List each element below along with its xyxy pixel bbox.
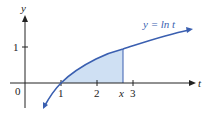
ln-graph: y t 0 1 2 x 3 1 y = ln t [0,0,207,122]
tick-1-label: 1 [58,87,64,99]
tick-3-label: 3 [130,87,136,99]
y-axis-label: y [20,2,26,14]
y-tick-1-label: 1 [13,41,19,53]
curve-label: y = ln t [142,18,176,30]
tick-2-label: 2 [94,87,100,99]
curve-arrow-end-icon [186,27,193,33]
y-axis-arrow-icon [22,15,28,22]
t-axis-label: t [198,77,202,89]
origin-label: 0 [15,85,21,97]
shaded-area [61,49,123,83]
t-axis-arrow-icon [189,80,196,86]
tick-x-label: x [118,87,124,99]
